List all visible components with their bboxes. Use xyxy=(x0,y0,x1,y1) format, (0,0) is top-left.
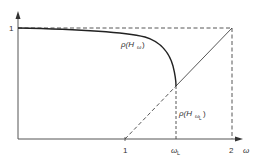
x-axis-arrow-icon xyxy=(235,137,243,142)
diagonal-solid-line xyxy=(176,28,232,86)
x-tick-label-omega-l-sub: L xyxy=(177,150,180,156)
x-tick-label-one: 1 xyxy=(123,146,128,155)
x-axis-label-omega: ω xyxy=(243,146,249,155)
diagonal-dashed-line xyxy=(125,86,176,139)
point-label-subsub: L xyxy=(199,116,202,121)
y-axis-arrow-icon xyxy=(16,11,21,19)
curve-label-rho: ρ(H xyxy=(120,40,134,49)
spectral-radius-diagram: 1 1 ω L 2 ω ρ(H ω ) ρ(H ω L ) xyxy=(0,0,265,165)
x-tick-label-two: 2 xyxy=(229,146,234,155)
point-label-rho: ρ(H xyxy=(178,109,192,118)
point-label-close: ) xyxy=(203,109,206,118)
y-tick-label-one: 1 xyxy=(9,24,14,33)
curve-label-close: ) xyxy=(142,40,145,49)
rho-curve xyxy=(18,28,176,86)
